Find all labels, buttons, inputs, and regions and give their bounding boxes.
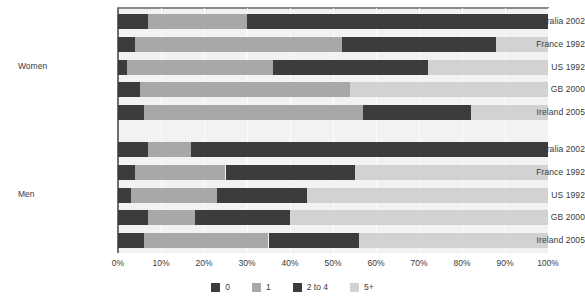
x-tick-80: 80% bbox=[453, 258, 470, 268]
bar-segment-0 bbox=[118, 37, 135, 52]
category-label: GB 2000 bbox=[477, 210, 585, 225]
bar-segment-1 bbox=[140, 82, 351, 97]
category-label: France 1992 bbox=[477, 37, 585, 52]
x-tick-90: 90% bbox=[496, 258, 513, 268]
bar-segment-2-to-4 bbox=[363, 105, 471, 120]
group-label-women: Women bbox=[18, 61, 70, 71]
category-label: US 1992 bbox=[477, 188, 585, 203]
bar-segment-0 bbox=[118, 188, 131, 203]
bar-segment-0 bbox=[118, 105, 144, 120]
category-label: Ireland 2005 bbox=[477, 105, 585, 120]
bar-segment-0 bbox=[118, 165, 135, 180]
bar-segment-2-to-4 bbox=[217, 188, 307, 203]
x-tick-70: 70% bbox=[410, 258, 427, 268]
bar-segment-0 bbox=[118, 210, 148, 225]
legend-item[interactable]: 5+ bbox=[350, 282, 374, 292]
category-label: France 1992 bbox=[477, 165, 585, 180]
bar-segment-1 bbox=[144, 233, 269, 248]
bar-segment-1 bbox=[148, 210, 195, 225]
bar-segment-1 bbox=[144, 105, 363, 120]
bar-segment-1 bbox=[135, 37, 341, 52]
legend-label: 5+ bbox=[364, 282, 374, 292]
legend-swatch-icon bbox=[350, 283, 359, 292]
bar-segment-1 bbox=[148, 142, 191, 157]
bar-segment-2-to-4 bbox=[226, 165, 355, 180]
bar-segment-1 bbox=[131, 188, 217, 203]
group-label-men: Men bbox=[18, 189, 70, 199]
legend-swatch-icon bbox=[252, 283, 261, 292]
x-tick-40: 40% bbox=[281, 258, 298, 268]
x-tick-10: 10% bbox=[152, 258, 169, 268]
category-label: Australia 2002 bbox=[477, 14, 585, 29]
bar-segment-1 bbox=[127, 60, 273, 75]
x-tick-30: 30% bbox=[238, 258, 255, 268]
bar-segment-0 bbox=[118, 60, 127, 75]
category-label: Ireland 2005 bbox=[477, 233, 585, 248]
legend-label: 0 bbox=[225, 282, 230, 292]
stacked-bar-chart: Australia 2002France 1992US 1992GB 2000I… bbox=[0, 0, 585, 303]
legend-swatch-icon bbox=[211, 283, 220, 292]
bar-segment-0 bbox=[118, 82, 140, 97]
legend-item[interactable]: 2 to 4 bbox=[293, 282, 328, 292]
x-tick-60: 60% bbox=[367, 258, 384, 268]
bar-segment-2-to-4 bbox=[269, 233, 359, 248]
category-label: GB 2000 bbox=[477, 82, 585, 97]
category-label: Australia 2002 bbox=[477, 142, 585, 157]
bar-segment-0 bbox=[118, 233, 144, 248]
chart-legend: 012 to 45+ bbox=[0, 282, 585, 292]
bar-segment-1 bbox=[148, 14, 247, 29]
bar-segment-0 bbox=[118, 142, 148, 157]
bar-segment-2-to-4 bbox=[273, 60, 428, 75]
legend-item[interactable]: 1 bbox=[252, 282, 271, 292]
bar-segment-2-to-4 bbox=[195, 210, 290, 225]
x-tick-20: 20% bbox=[195, 258, 212, 268]
x-tick-50: 50% bbox=[324, 258, 341, 268]
legend-swatch-icon bbox=[293, 283, 302, 292]
bar-segment-1 bbox=[135, 165, 225, 180]
legend-item[interactable]: 0 bbox=[211, 282, 230, 292]
legend-label: 1 bbox=[266, 282, 271, 292]
category-label: US 1992 bbox=[477, 60, 585, 75]
x-tick-100: 100% bbox=[537, 258, 559, 268]
x-tick-0: 0% bbox=[112, 258, 124, 268]
bar-segment-2-to-4 bbox=[342, 37, 497, 52]
bar-segment-0 bbox=[118, 14, 148, 29]
legend-label: 2 to 4 bbox=[307, 282, 328, 292]
